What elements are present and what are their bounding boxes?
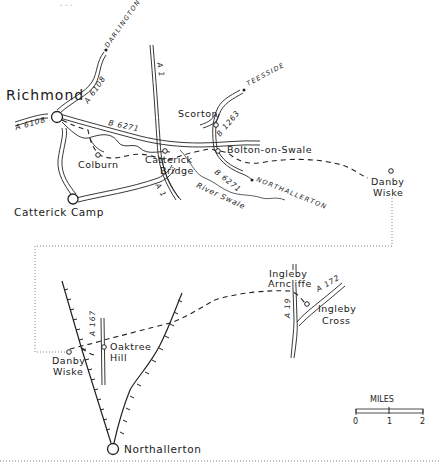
village-label-oaktree-hill-2: Hill (110, 352, 127, 363)
village-label-oaktree-hill-1: Oaktree (110, 341, 151, 352)
scale-tick-1: 1 (387, 417, 392, 426)
village-marker-danby-wiske-bottom (67, 350, 72, 355)
railway-east (114, 293, 182, 443)
road-minor-colburn-2 (90, 138, 104, 152)
walk-route-bottom (70, 291, 306, 349)
village-label-danby-wiske-bottom-2: Wiske (53, 366, 83, 377)
road-richmond-catterick-camp (58, 128, 76, 196)
village-label-danby-wiske-bottom-1: Danby (52, 355, 85, 366)
village-marker-catterick-bridge (163, 149, 168, 154)
village-marker-scorton (214, 123, 219, 128)
village-label-danby-wiske-top-2: Wiske (373, 187, 403, 198)
road-label-a19: A 19 (283, 298, 292, 319)
town-label-northallerton: Northallerton (124, 443, 201, 455)
town-marker-catterick-camp (68, 194, 78, 204)
destination-darlington: DARLINGTON (103, 0, 142, 49)
village-label-ingleby-arncliffe-2: Arncliffe (268, 278, 312, 289)
scale-unit-label: MILES (370, 395, 394, 404)
village-label-ingleby-cross-2: Cross (322, 315, 351, 326)
village-label-colburn: Colburn (78, 159, 118, 170)
river-swale (180, 150, 285, 200)
village-marker-colburn (96, 153, 101, 158)
village-label-danby-wiske-top-1: Danby (371, 176, 404, 187)
town-marker-richmond (52, 112, 63, 123)
village-marker-ingleby-cross (305, 302, 310, 307)
road-a167 (101, 318, 105, 385)
village-marker-danby-wiske-top (389, 169, 394, 174)
destination-northallerton: NORTHALLERTON (255, 175, 328, 211)
village-label-catterick-bridge-2: Bridge (160, 165, 194, 176)
village-marker-oaktree-hill (102, 345, 107, 350)
destination-teesside: TEESSIDE (245, 61, 286, 88)
road-a19 (291, 287, 297, 358)
town-label-catterick-camp: Catterick Camp (14, 206, 104, 218)
scale-bar: MILES 0 1 2 (353, 395, 425, 426)
town-label-richmond: Richmond (6, 87, 84, 103)
road-label-b6271-west: B 6271 (108, 118, 141, 133)
village-marker-bolton-on-swale (216, 149, 221, 154)
scale-tick-0: 0 (353, 417, 358, 426)
road-label-a1-north: A 1 (155, 61, 167, 78)
scale-tick-2: 2 (420, 417, 425, 426)
village-label-bolton-on-swale: Bolton-on-Swale (227, 144, 312, 155)
village-label-catterick-bridge-1: Catterick (145, 154, 193, 165)
road-label-b1263: B 1263 (215, 108, 242, 138)
cut-off-title: ... (60, 0, 76, 8)
road-label-a167: A 167 (88, 310, 97, 337)
road-b1263 (200, 89, 254, 182)
village-label-ingleby-cross-1: Ingleby (318, 303, 357, 314)
route-map: ... (0, 0, 439, 463)
road-label-a6108-north: A 6108 (82, 74, 108, 106)
road-label-a172: A 172 (314, 273, 342, 294)
village-label-scorton: Scorton (178, 108, 218, 119)
town-marker-northallerton (108, 444, 119, 455)
